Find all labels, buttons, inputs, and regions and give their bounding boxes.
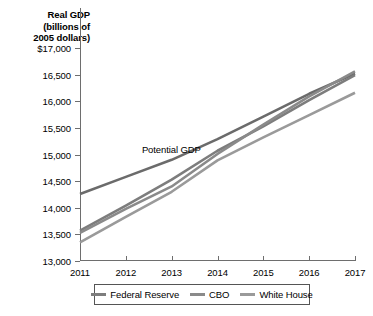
y-tick-label: 15,500 [43,122,71,133]
legend-item[interactable]: Federal Reserve [91,289,179,300]
y-axis-title-line-2: (billions of [14,21,90,33]
x-tick-label: 2014 [207,267,228,278]
annotation-potential-gdp: Potential GDP [142,144,201,155]
x-tick-mark [355,256,356,261]
y-tick-mark [75,261,80,262]
gdp-forecast-chart: Real GDP (billions of 2005 dollars) 13,0… [0,0,373,316]
legend-line-icon [240,293,255,296]
legend-label: Federal Reserve [110,289,179,300]
y-tick-label: 13,000 [43,256,71,267]
y-tick-label: $17,000 [37,43,71,54]
series-line-potential-gdp [80,74,355,194]
legend-line-icon [91,293,106,296]
x-tick-label: 2011 [70,267,90,278]
legend-line-icon [190,293,205,296]
legend-label: CBO [209,289,229,300]
y-axis-title-line-1: Real GDP [14,9,90,21]
x-tick-label: 2015 [253,267,274,278]
y-tick-label: 15,000 [43,149,71,160]
series-lines [80,48,355,261]
legend-item[interactable]: White House [240,289,312,300]
y-tick-label: 16,500 [43,69,71,80]
y-tick-label: 13,500 [43,229,71,240]
plot-area: 13,00013,50014,00014,50015,00015,50016,0… [80,48,355,261]
y-axis-title: Real GDP (billions of 2005 dollars) [14,9,90,44]
series-line-white-house [80,93,355,243]
y-tick-label: 16,000 [43,96,71,107]
x-tick-label: 2017 [345,267,366,278]
y-tick-label: 14,500 [43,176,71,187]
legend-label: White House [259,289,312,300]
x-tick-label: 2013 [161,267,182,278]
y-tick-label: 14,000 [43,202,71,213]
chart-legend: Federal ReserveCBOWhite House [94,284,310,305]
x-tick-label: 2016 [299,267,320,278]
x-tick-label: 2012 [115,267,136,278]
legend-item[interactable]: CBO [190,289,229,300]
